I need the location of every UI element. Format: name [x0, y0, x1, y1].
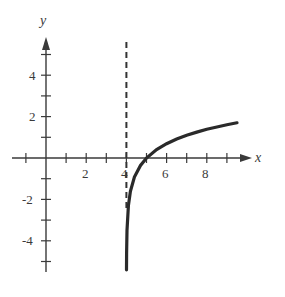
function-curve: [127, 123, 238, 270]
x-axis-arrow-icon: [240, 154, 252, 162]
y-tick-label-4: 4: [29, 68, 36, 83]
axes: [12, 37, 252, 272]
y-tick-label-2: 2: [29, 109, 36, 124]
y-tick-label-neg2: -2: [22, 192, 33, 207]
x-axis-label: x: [254, 150, 262, 165]
x-tick-label-6: 6: [162, 166, 169, 181]
y-axis-label: y: [38, 13, 47, 28]
y-tick-label-neg4: -4: [22, 233, 33, 248]
x-tick-label-4: 4: [121, 166, 128, 181]
y-axis-arrow-icon: [42, 37, 50, 50]
x-tick-label-2: 2: [82, 166, 89, 181]
function-graph: y x 2 4 6 8 4 2 -2 -4: [0, 0, 285, 297]
x-tick-label-8: 8: [202, 166, 209, 181]
